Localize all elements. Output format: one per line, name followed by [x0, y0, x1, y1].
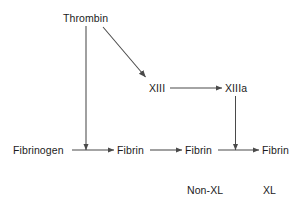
diagram-arrow-layer	[0, 0, 304, 208]
edge-thrombin-to-xiii	[103, 27, 146, 77]
node-fibrinogen: Fibrinogen	[13, 144, 64, 156]
node-fibrin-3: Fibrin	[262, 144, 289, 156]
node-xiii: XIII	[149, 82, 165, 94]
node-fibrin-2: Fibrin	[185, 144, 212, 156]
node-xiiia: XIIIa	[225, 82, 247, 94]
annotation-xl: XL	[263, 184, 276, 196]
annotation-non-xl: Non-XL	[187, 184, 223, 196]
node-thrombin: Thrombin	[63, 12, 108, 24]
fibrin-pathway-diagram: Thrombin XIII XIIIa Fibrinogen Fibrin Fi…	[0, 0, 304, 208]
node-fibrin-1: Fibrin	[117, 144, 144, 156]
